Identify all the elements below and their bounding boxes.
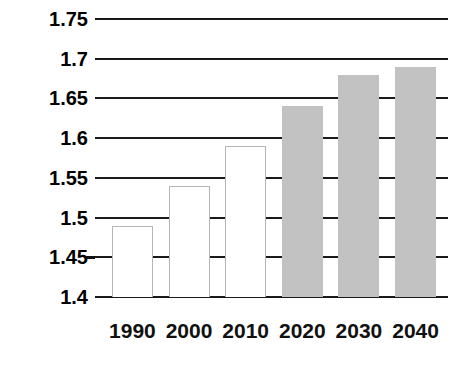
y-tick-label: 1.6 [0, 128, 88, 148]
y-axis: 1.751.71.651.61.551.51.451.4 [0, 0, 88, 368]
bar-2030 [338, 75, 379, 297]
y-tick-label: 1.55 [0, 168, 88, 188]
y-tick-label: 1.5 [0, 208, 88, 228]
bar-chart: 1.751.71.651.61.551.51.451.4 19902000201… [0, 0, 469, 368]
x-tick-label: 2000 [166, 320, 213, 341]
y-tick-label: 1.65 [0, 88, 88, 108]
x-tick-label: 2040 [392, 320, 439, 341]
gridline [95, 58, 448, 60]
y-tick-label: 1.75 [0, 9, 88, 29]
y-tick-label: 1.45 [0, 247, 88, 267]
x-tick-label: 2020 [279, 320, 326, 341]
y-tick-mark [86, 256, 95, 259]
x-axis: 199020002010202020302040 [95, 320, 448, 350]
bar-2010 [225, 146, 266, 297]
y-tick-label: 1.4 [0, 287, 88, 307]
gridline [95, 18, 448, 20]
bar-1990 [112, 226, 153, 297]
bar-2020 [282, 106, 323, 297]
x-tick-label: 2010 [222, 320, 269, 341]
y-tick-label: 1.7 [0, 49, 88, 69]
bar-2000 [169, 186, 210, 297]
x-tick-label: 2030 [336, 320, 383, 341]
plot-area [95, 19, 448, 297]
bar-2040 [395, 67, 436, 297]
x-tick-label: 1990 [109, 320, 156, 341]
